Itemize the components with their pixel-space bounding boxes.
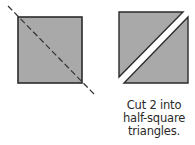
left-square-figure bbox=[8, 6, 95, 95]
caption: Cut 2 into half-square triangles. bbox=[113, 99, 195, 138]
right-triangles-figure bbox=[119, 12, 188, 83]
caption-line-3: triangles. bbox=[113, 125, 195, 138]
